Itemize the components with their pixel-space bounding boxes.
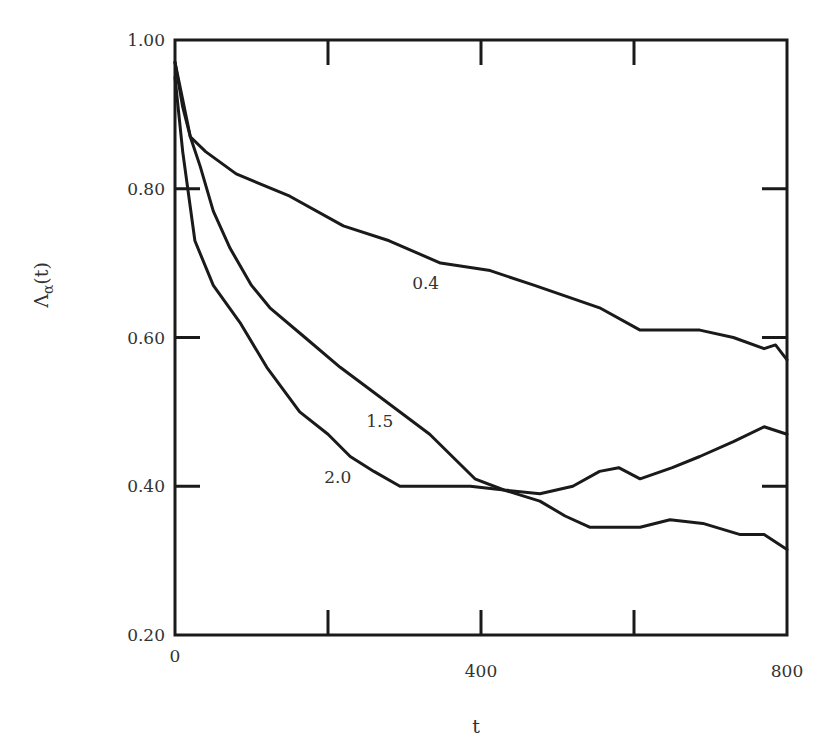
y-tick-label: 0.80	[127, 179, 165, 199]
x-tick-label: 400	[465, 661, 497, 681]
y-axis-label: Λα(t)	[30, 262, 56, 309]
y-tick-label: 0.20	[127, 625, 165, 645]
curve-0-4	[175, 62, 787, 360]
line-chart: 0.200.400.600.801.00 0400800 0.41.52.0 t…	[0, 0, 825, 751]
curve-label-1-5: 1.5	[366, 411, 393, 431]
curve-labels: 0.41.52.0	[324, 273, 439, 486]
x-axis-ticks: 0400800	[170, 40, 804, 681]
plot-frame	[175, 40, 787, 635]
x-tick-label: 0	[170, 646, 181, 666]
curve-label-2-0: 2.0	[324, 467, 351, 487]
svg-text:Λα(t): Λα(t)	[30, 262, 56, 309]
y-tick-label: 1.00	[127, 30, 165, 50]
curve-2-0	[175, 77, 787, 549]
y-axis-ticks: 0.200.400.600.801.00	[127, 30, 787, 645]
y-tick-label: 0.40	[127, 476, 165, 496]
curve-1-5	[175, 62, 787, 493]
y-axis-label-arg: (t)	[30, 262, 52, 284]
data-series	[175, 62, 787, 549]
y-axis-label-main: Λ	[30, 294, 52, 309]
x-tick-label: 800	[771, 661, 803, 681]
x-axis-label: t	[472, 715, 480, 737]
y-tick-label: 0.60	[127, 328, 165, 348]
curve-label-0-4: 0.4	[412, 273, 439, 293]
